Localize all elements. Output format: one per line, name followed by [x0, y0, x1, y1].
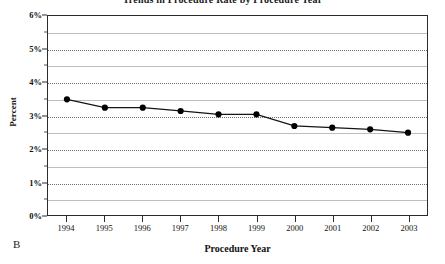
x-tick-label: 1998: [210, 223, 227, 233]
data-point-marker: [102, 105, 108, 111]
y-axis: Percent 0%1%2%3%4%5%6%: [0, 15, 47, 216]
data-point-marker: [367, 126, 373, 132]
data-point-marker: [291, 123, 297, 129]
y-tick-label: 3%: [29, 111, 42, 121]
x-tick-mark: [295, 216, 296, 222]
x-tick-label: 2002: [362, 223, 379, 233]
chart-title-cropped: Trends in Procedure Rate by Procedure Ye…: [0, 0, 445, 5]
x-tick-label: 2003: [400, 223, 417, 233]
panel-label: B: [13, 238, 20, 250]
data-point-marker: [64, 96, 70, 102]
data-point-marker: [140, 105, 146, 111]
y-axis-title: Percent: [8, 77, 18, 147]
x-tick-mark: [409, 216, 410, 222]
y-tick-label: 0%: [29, 211, 42, 221]
x-tick-label: 1997: [172, 223, 189, 233]
data-point-marker: [253, 111, 259, 117]
data-point-marker: [215, 111, 221, 117]
y-tick-label: 5%: [29, 44, 42, 54]
x-tick-mark: [104, 216, 105, 222]
x-tick-label: 2001: [324, 223, 341, 233]
y-tick-label: 4%: [29, 77, 42, 87]
data-point-marker: [329, 125, 335, 131]
plot-area: [47, 15, 428, 216]
x-tick-label: 1996: [134, 223, 151, 233]
y-tick-label: 6%: [29, 10, 42, 20]
y-tick-label: 2%: [29, 144, 42, 154]
x-tick-mark: [180, 216, 181, 222]
x-axis: 1994199519961997199819992000200120022003: [47, 216, 428, 246]
x-tick-mark: [142, 216, 143, 222]
x-tick-mark: [66, 216, 67, 222]
x-tick-mark: [257, 216, 258, 222]
data-series-line: [48, 16, 427, 216]
x-tick-mark: [371, 216, 372, 222]
data-point-marker: [178, 108, 184, 114]
x-axis-title: Procedure Year: [47, 243, 428, 254]
x-tick-label: 1994: [58, 223, 75, 233]
chart-figure: Trends in Procedure Rate by Procedure Ye…: [0, 0, 445, 264]
x-tick-mark: [218, 216, 219, 222]
x-tick-label: 1999: [248, 223, 265, 233]
x-tick-mark: [333, 216, 334, 222]
data-point-marker: [405, 130, 411, 136]
y-tick-label: 1%: [29, 178, 42, 188]
series-line: [67, 99, 408, 132]
x-tick-label: 2000: [286, 223, 303, 233]
x-tick-label: 1995: [96, 223, 113, 233]
